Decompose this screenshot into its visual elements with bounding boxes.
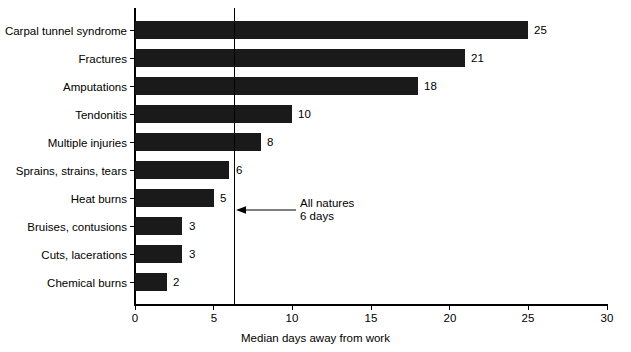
x-tick-label-30: 30 (601, 313, 614, 325)
bar-value-multiple-injuries: 8 (267, 137, 273, 149)
bar-value-sprains-strains-tears: 6 (236, 165, 242, 177)
y-label-chemical-burns: Chemical burns (47, 278, 127, 290)
x-axis-title: Median days away from work (0, 333, 631, 345)
y-label-heat-burns: Heat burns (71, 194, 127, 206)
bar-cuts-lacerations (135, 245, 182, 263)
bar-sprains-strains-tears (135, 161, 229, 179)
x-tick-15 (371, 304, 372, 310)
y-label-carpal-tunnel-syndrome: Carpal tunnel syndrome (5, 26, 127, 38)
x-tick-10 (292, 304, 293, 310)
bar-bruises-contusions (135, 217, 182, 235)
x-tick-label-5: 5 (211, 313, 217, 325)
y-label-sprains-strains-tears: Sprains, strains, tears (16, 166, 127, 178)
x-tick-30 (607, 304, 608, 310)
bar-value-heat-burns: 5 (220, 193, 226, 205)
x-tick-20 (449, 304, 450, 310)
y-label-tendonitis: Tendonitis (75, 110, 127, 122)
bar-amputations (135, 77, 418, 95)
x-tick-label-20: 20 (444, 313, 457, 325)
all-natures-reference-line (234, 8, 235, 305)
bar-value-cuts-lacerations: 3 (189, 249, 195, 261)
all-natures-annotation: All natures 6 days (300, 197, 354, 223)
bar-multiple-injuries (135, 133, 261, 151)
x-tick-0 (135, 304, 136, 310)
annotation-line-2: 6 days (300, 210, 354, 223)
bar-heat-burns (135, 189, 214, 207)
x-tick-25 (528, 304, 529, 310)
bar-fractures (135, 49, 465, 67)
y-label-amputations: Amputations (63, 82, 127, 94)
bar-value-fractures: 21 (471, 53, 484, 65)
annotation-arrow-icon (234, 205, 296, 215)
x-tick-label-0: 0 (132, 313, 138, 325)
x-tick-label-15: 15 (365, 313, 378, 325)
bar-value-chemical-burns: 2 (173, 277, 179, 289)
bar-value-amputations: 18 (424, 81, 437, 93)
y-axis-category-labels: Carpal tunnel syndrome Fractures Amputat… (0, 0, 127, 352)
annotation-line-1: All natures (300, 197, 354, 210)
bar-value-tendonitis: 10 (298, 109, 311, 121)
bar-chart: Carpal tunnel syndrome Fractures Amputat… (0, 0, 631, 352)
x-tick-label-25: 25 (522, 313, 535, 325)
bar-value-bruises-contusions: 3 (189, 221, 195, 233)
x-tick-label-10: 10 (286, 313, 299, 325)
y-label-bruises-contusions: Bruises, contusions (27, 222, 127, 234)
bar-tendonitis (135, 105, 292, 123)
bar-chemical-burns (135, 273, 167, 291)
y-label-multiple-injuries: Multiple injuries (48, 138, 127, 150)
y-label-fractures: Fractures (78, 54, 127, 66)
plot-area: 25 21 18 10 8 6 5 3 3 2 (135, 8, 607, 305)
x-tick-5 (213, 304, 214, 310)
bar-carpal-tunnel-syndrome (135, 21, 528, 39)
bar-value-carpal-tunnel-syndrome: 25 (534, 25, 547, 37)
y-label-cuts-lacerations: Cuts, lacerations (41, 250, 127, 262)
